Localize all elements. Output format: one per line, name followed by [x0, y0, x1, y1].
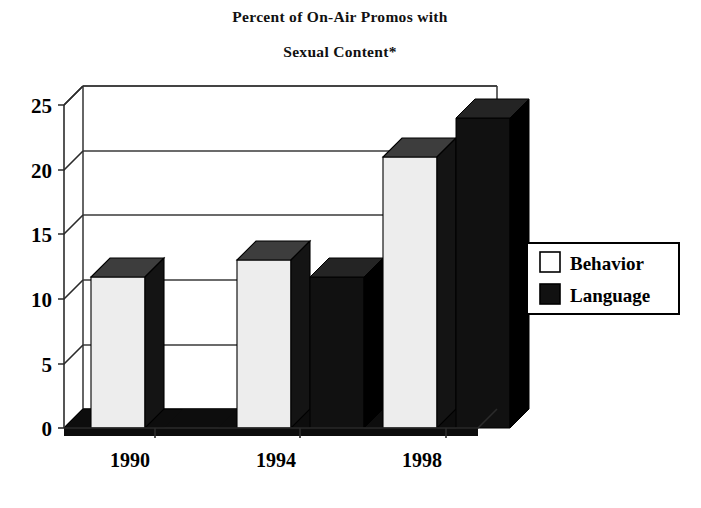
bar-language-1998[interactable]	[456, 99, 529, 428]
x-axis-tick-labels: 1990 1994 1998	[110, 449, 442, 471]
bar-group-1998	[383, 99, 529, 428]
legend-entry-behavior[interactable]: Behavior	[540, 252, 644, 274]
x-tick-label-1994: 1994	[256, 449, 296, 471]
bar-side-face	[364, 258, 383, 428]
bar-side-face	[291, 241, 310, 428]
y-tick-label-25: 25	[31, 94, 52, 118]
x-tick-label-1998: 1998	[402, 449, 442, 471]
bar-side-face	[437, 138, 456, 428]
chart-title-line-1: Percent of On-Air Promos with	[232, 8, 447, 25]
legend-label-behavior: Behavior	[570, 253, 644, 274]
legend-entry-language[interactable]: Language	[540, 284, 650, 306]
chart-title-line-2: Sexual Content*	[283, 43, 396, 60]
bar-language-1994[interactable]	[310, 258, 383, 428]
bar-chart-canvas: Percent of On-Air Promos with Sexual Con…	[0, 0, 701, 508]
y-tick-label-10: 10	[31, 288, 52, 312]
ytick-connector-10	[58, 280, 83, 299]
bar-behavior-1998[interactable]	[383, 138, 456, 428]
ytick-connector-20	[58, 151, 83, 170]
bar-front-face	[310, 277, 364, 428]
bar-behavior-1990[interactable]	[91, 258, 164, 428]
y-tick-label-0: 0	[42, 417, 53, 441]
y-tick-label-15: 15	[31, 223, 52, 247]
ytick-connector-5	[58, 345, 83, 364]
legend-label-language: Language	[570, 285, 650, 306]
light-square-swatch-icon	[540, 252, 560, 272]
chart-figure: Percent of On-Air Promos with Sexual Con…	[0, 0, 701, 508]
bar-behavior-1994[interactable]	[237, 241, 310, 428]
chart-legend[interactable]: Behavior Language	[527, 243, 679, 314]
bar-front-face	[91, 277, 145, 428]
x-tick-label-1990: 1990	[110, 449, 150, 471]
chart-title: Percent of On-Air Promos with Sexual Con…	[232, 8, 447, 60]
bar-group-1990	[91, 258, 237, 428]
y-axis-tick-labels: 25 20 15 10 5 0	[31, 94, 52, 441]
bar-front-face	[237, 260, 291, 428]
bar-front-face	[383, 157, 437, 428]
floor-slab-front	[64, 428, 478, 436]
bar-group-1994	[237, 241, 383, 428]
y-tick-label-5: 5	[42, 353, 53, 377]
ytick-connector-15	[58, 215, 83, 234]
bar-front-face	[456, 118, 510, 428]
ytick-connector-25	[58, 86, 83, 105]
dark-square-swatch-icon	[540, 284, 560, 304]
bar-side-face	[145, 258, 164, 428]
y-tick-label-20: 20	[31, 159, 52, 183]
